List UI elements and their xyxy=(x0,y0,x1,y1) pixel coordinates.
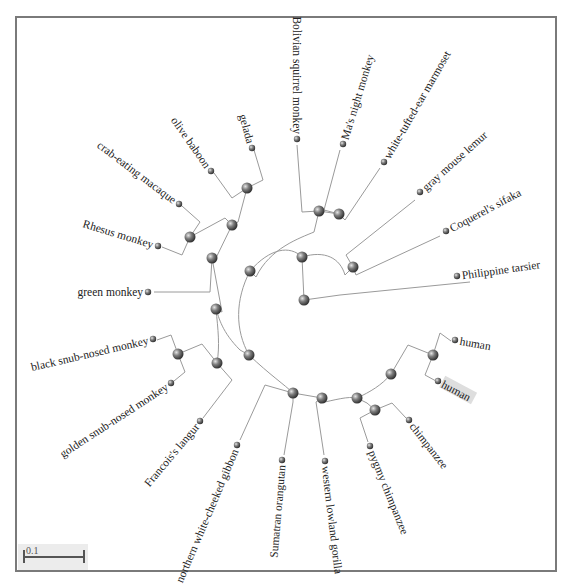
internal-node[interactable] xyxy=(348,262,359,273)
leaf-node-icon[interactable] xyxy=(150,336,156,342)
leaf-label[interactable]: Sumatran orangutan xyxy=(267,464,288,558)
leaf-label[interactable]: Ma's night monkey xyxy=(339,53,377,141)
internal-node[interactable] xyxy=(288,388,299,399)
leaf-human_2[interactable]: human xyxy=(435,376,477,405)
leaf-label[interactable]: black snub-nosed monkey xyxy=(30,334,150,374)
branch xyxy=(247,150,263,188)
leaf-label[interactable]: gray mouse lemur xyxy=(420,129,491,194)
leaf-node-icon[interactable] xyxy=(279,457,285,463)
internal-node[interactable] xyxy=(185,232,196,243)
leaf-gibbon[interactable]: northern white-cheeked gibbon xyxy=(173,442,241,584)
internal-node[interactable] xyxy=(227,220,238,231)
leaf-night_monkey[interactable]: Ma's night monkey xyxy=(339,53,377,147)
leaf-node-icon[interactable] xyxy=(322,458,328,464)
leaf-label[interactable]: western lowland gorilla xyxy=(319,465,345,574)
leaf-green_monkey[interactable]: green monkey xyxy=(78,286,152,299)
leaf-node-icon[interactable] xyxy=(176,201,182,207)
leaf-golden_snub[interactable]: golden snub-nosed monkey xyxy=(57,380,174,461)
leaf-label[interactable]: pygmy chimpanzee xyxy=(365,448,411,536)
internal-node[interactable] xyxy=(244,350,255,361)
leaf-label[interactable]: green monkey xyxy=(78,286,144,299)
branch xyxy=(216,309,249,355)
leaf-node-icon[interactable] xyxy=(197,418,203,424)
leaf-langur[interactable]: Francois's langur xyxy=(142,418,203,490)
leaf-node-icon[interactable] xyxy=(443,228,449,234)
leaf-black_snub[interactable]: black snub-nosed monkey xyxy=(30,334,156,374)
phylogenetic-tree: Philippine tarsierCoquerel's sifakagray … xyxy=(0,0,570,584)
leaf-node-icon[interactable] xyxy=(417,189,423,195)
branch xyxy=(353,236,440,275)
branch xyxy=(240,385,293,440)
leaf-node-icon[interactable] xyxy=(367,443,373,449)
leaf-mouse_lemur[interactable]: gray mouse lemur xyxy=(417,129,490,196)
internal-node[interactable] xyxy=(173,349,184,360)
leaf-gelada[interactable]: gelada xyxy=(236,113,256,152)
leaf-label[interactable]: human xyxy=(459,335,492,352)
branch xyxy=(178,344,217,363)
leaf-node-icon[interactable] xyxy=(381,159,387,165)
leaf-label[interactable]: white-tufted-ear marmoset xyxy=(381,48,453,161)
leaf-label[interactable]: Rhesus monkey xyxy=(81,217,155,251)
internal-node[interactable] xyxy=(242,183,253,194)
leaf-label[interactable]: Philippine tarsier xyxy=(461,258,541,282)
leaf-node-icon[interactable] xyxy=(234,442,240,448)
leaf-node-icon[interactable] xyxy=(168,380,174,386)
leaf-label[interactable]: Bolivian squirrel monkey xyxy=(290,16,303,134)
leaf-marmoset[interactable]: white-tufted-ear marmoset xyxy=(381,48,453,165)
leaf-node-icon[interactable] xyxy=(340,141,346,147)
branch xyxy=(304,282,470,300)
leaf-sifaka[interactable]: Coquerel's sifaka xyxy=(443,186,524,235)
leaf-node-icon[interactable] xyxy=(435,378,441,384)
leaf-label[interactable]: northern white-cheeked gibbon xyxy=(173,447,241,584)
branch xyxy=(203,363,232,418)
leaf-label[interactable]: crab-eating macaque xyxy=(95,139,179,207)
leaf-label[interactable]: golden snub-nosed monkey xyxy=(57,381,170,461)
leaf-node-icon[interactable] xyxy=(406,417,412,423)
leaf-gorilla[interactable]: western lowland gorilla xyxy=(319,458,345,575)
internal-node[interactable] xyxy=(370,405,381,416)
leaf-node-icon[interactable] xyxy=(155,243,161,249)
leaf-node-icon[interactable] xyxy=(145,289,151,295)
branch xyxy=(154,258,212,292)
leaf-node-icon[interactable] xyxy=(454,273,460,279)
leaf-olive_baboon[interactable]: olive baboon xyxy=(169,115,214,175)
internal-node[interactable] xyxy=(334,209,345,220)
leaf-label[interactable]: Coquerel's sifaka xyxy=(448,186,524,235)
leaf-label[interactable]: gelada xyxy=(236,113,256,145)
branch xyxy=(249,355,293,393)
leaf-node-icon[interactable] xyxy=(294,136,300,142)
branch xyxy=(357,374,391,398)
internal-node[interactable] xyxy=(317,393,328,404)
leaf-node-icon[interactable] xyxy=(249,145,255,151)
internal-node[interactable] xyxy=(207,253,218,264)
branch xyxy=(324,150,340,214)
internal-node[interactable] xyxy=(352,393,363,404)
leaf-label[interactable]: chimpanzee xyxy=(407,420,451,471)
leaf-chimp[interactable]: chimpanzee xyxy=(406,417,451,472)
leaf-node-icon[interactable] xyxy=(452,337,458,343)
leaf-orangutan[interactable]: Sumatran orangutan xyxy=(267,457,288,558)
internal-node[interactable] xyxy=(428,350,439,361)
leaf-nodes: Philippine tarsierCoquerel's sifakagray … xyxy=(30,16,541,584)
root-node[interactable] xyxy=(299,295,310,306)
scale-bar-line xyxy=(23,556,84,558)
internal-node[interactable] xyxy=(314,206,325,217)
scale-bar-label: 0.1 xyxy=(26,545,39,556)
internal-node[interactable] xyxy=(211,304,222,315)
internal-node[interactable] xyxy=(386,369,397,380)
leaf-rhesus[interactable]: Rhesus monkey xyxy=(81,217,161,251)
internal-node[interactable] xyxy=(245,266,256,277)
branch xyxy=(302,257,304,300)
branch xyxy=(316,398,324,455)
leaf-node-icon[interactable] xyxy=(208,168,214,174)
leaf-label[interactable]: olive baboon xyxy=(169,115,213,171)
internal-node[interactable] xyxy=(212,358,223,369)
leaf-label[interactable]: Francois's langur xyxy=(142,421,202,490)
leaf-tarsier[interactable]: Philippine tarsier xyxy=(454,258,541,282)
leaf-human_1[interactable]: human xyxy=(452,335,492,352)
leaf-crab_macaque[interactable]: crab-eating macaque xyxy=(95,139,183,207)
internal-node[interactable] xyxy=(297,252,308,263)
branch xyxy=(250,211,319,277)
leaf-bonobo[interactable]: pygmy chimpanzee xyxy=(365,443,411,537)
leaf-squirrel_monkey[interactable]: Bolivian squirrel monkey xyxy=(290,16,303,142)
